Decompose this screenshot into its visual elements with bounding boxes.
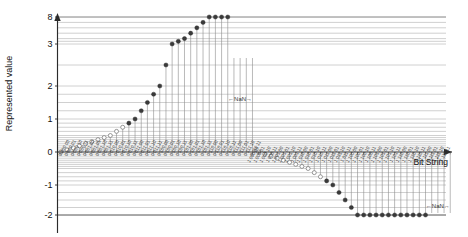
y-tick-label: 2 [47,81,52,91]
data-point-open[interactable] [121,125,125,129]
data-point-open[interactable] [306,167,310,171]
data-point-filled[interactable] [189,31,193,35]
y-tick-label: 8 [47,12,52,22]
data-point-open[interactable] [115,129,119,133]
data-point-filled[interactable] [127,121,131,125]
y-tick-label: 1 [47,114,52,124]
data-point-filled[interactable] [331,183,335,187]
data-point-filled[interactable] [226,15,230,19]
data-point-filled[interactable] [368,213,372,217]
data-point-filled[interactable] [374,213,378,217]
y-tick-label: -1 [44,180,52,190]
nan-annotation: ←NaN→ [228,96,252,102]
nan-annotation: ←NaN→ [426,203,450,209]
data-point-filled[interactable] [405,213,409,217]
y-tick-label: 0 [47,147,52,157]
data-point-filled[interactable] [145,100,149,104]
data-point-filled[interactable] [325,179,329,183]
data-point-filled[interactable] [201,20,205,24]
data-point-filled[interactable] [213,15,217,19]
data-point-filled[interactable] [151,92,155,96]
x-axis-title: Bit String [414,157,449,167]
data-point-filled[interactable] [393,213,397,217]
data-point-filled[interactable] [176,39,180,43]
data-point-filled[interactable] [343,198,347,202]
data-point-open[interactable] [294,162,298,166]
data-point-filled[interactable] [133,117,137,121]
data-point-filled[interactable] [380,213,384,217]
data-point-filled[interactable] [399,213,403,217]
data-point-filled[interactable] [386,213,390,217]
data-point-filled[interactable] [158,84,162,88]
data-point-filled[interactable] [349,205,353,209]
data-point-filled[interactable] [207,15,211,19]
y-tick-label: 3 [47,39,52,49]
data-point-filled[interactable] [195,26,199,30]
data-point-filled[interactable] [170,42,174,46]
data-point-filled[interactable] [423,213,427,217]
data-point-filled[interactable] [417,213,421,217]
floating-point-value-chart: 83210-1-2Represented value0 000 000 000 … [0,0,468,237]
data-point-filled[interactable] [355,213,359,217]
y-axis-title: Represented value [4,56,14,132]
data-point-filled[interactable] [139,109,143,113]
data-point-filled[interactable] [411,213,415,217]
data-point-open[interactable] [312,171,316,175]
data-point-filled[interactable] [337,190,341,194]
data-point-filled[interactable] [362,213,366,217]
data-point-filled[interactable] [182,37,186,41]
chart-root: 83210-1-2Represented value0 000 000 000 … [0,0,468,237]
y-tick-label: -2 [44,210,52,220]
data-point-filled[interactable] [164,63,168,67]
data-point-open[interactable] [300,164,304,168]
data-point-filled[interactable] [219,15,223,19]
data-point-open[interactable] [108,134,112,138]
data-point-open[interactable] [318,175,322,179]
